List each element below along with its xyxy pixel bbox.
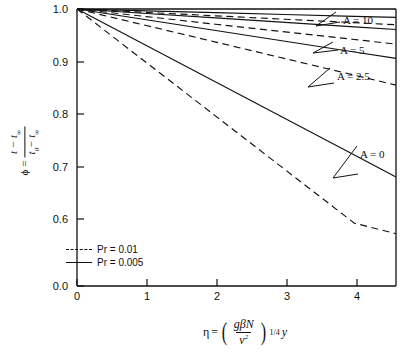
- curve-7: [77, 9, 396, 234]
- x-tick-label-2: 2: [207, 290, 227, 302]
- legend-label-pr-0.005: Pr = 0.005: [97, 257, 143, 268]
- y-axis-phi-symbol: ϕ: [18, 170, 30, 176]
- x-axis-eta-symbol: η: [203, 325, 209, 340]
- y-tick-label-0.6: 0.6: [34, 213, 68, 225]
- x-tick-label-3: 3: [277, 290, 297, 302]
- legend: Pr = 0.01 Pr = 0.005: [66, 243, 143, 269]
- leader-a10: [316, 12, 340, 26]
- x-axis-denominator: ν2: [236, 332, 251, 347]
- y-tick-label-1.0: 1.0: [34, 3, 68, 15]
- annotation-a-0: A = 0: [360, 148, 385, 160]
- chart-figure: 1.0 0.9 0.8 0.7 0.6 0.0 0 1 2 3 4 ϕ = t …: [0, 0, 408, 352]
- y-tick-label-0.9: 0.9: [34, 56, 68, 68]
- x-axis-open-paren: (: [222, 322, 227, 343]
- data-curves: [77, 9, 396, 234]
- legend-item-pr-0.005: Pr = 0.005: [66, 256, 143, 269]
- legend-swatch-dashed-icon: [66, 249, 92, 250]
- x-axis-exponent: 1/4: [269, 328, 279, 337]
- x-axis-ticks: [77, 279, 357, 286]
- legend-item-pr-0.01: Pr = 0.01: [66, 243, 143, 256]
- y-tick-label-0.0: 0.0: [34, 280, 68, 292]
- x-axis-fraction: gβN ν2: [231, 318, 257, 346]
- x-axis-close-paren: ): [260, 322, 265, 343]
- x-axis-equals: =: [211, 325, 218, 340]
- x-axis-numerator: gβN: [231, 318, 257, 332]
- annotation-a-5: A = 5: [340, 44, 365, 56]
- x-axis-variable: y: [282, 325, 287, 340]
- y-axis-numerator: t − t∞: [8, 127, 24, 157]
- annotation-a-10: A = 10: [343, 14, 373, 26]
- annotation-a-2.5: A = 2.5: [337, 70, 370, 82]
- x-tick-label-0: 0: [67, 290, 87, 302]
- legend-label-pr-0.01: Pr = 0.01: [97, 244, 138, 255]
- x-tick-label-1: 1: [137, 290, 157, 302]
- leader-a25: [308, 68, 334, 87]
- y-axis-denominator: t0− t∞: [24, 127, 41, 158]
- x-axis-label: η = ( gβN ν2 ) 1/4 y: [120, 318, 370, 346]
- y-axis-equals: =: [18, 160, 30, 166]
- x-tick-label-4: 4: [347, 290, 367, 302]
- y-axis-label: ϕ = t − t∞ t0− t∞: [2, 96, 46, 206]
- legend-swatch-solid-icon: [66, 262, 92, 263]
- y-axis-fraction: t − t∞ t0− t∞: [8, 127, 40, 158]
